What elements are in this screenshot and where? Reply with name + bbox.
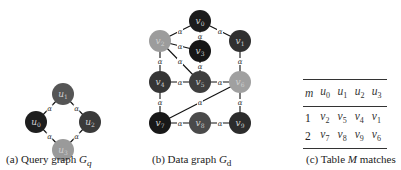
row-index: 2 — [303, 128, 318, 149]
edge-label: α — [158, 58, 163, 66]
node-v0: v0 — [189, 10, 211, 32]
header-m: m — [303, 80, 318, 107]
edge-label: α — [158, 99, 163, 107]
table-header-row: m u0 u1 u2 u3 — [303, 80, 387, 107]
edge-label: α — [178, 79, 183, 87]
edge-label: α — [47, 105, 52, 113]
match-cell: v5 — [336, 107, 353, 128]
edge-label: α — [74, 133, 79, 141]
node-v3: v3 — [189, 40, 211, 62]
caption-table: (c) Table M matches — [306, 153, 396, 165]
edge-label: α — [198, 63, 203, 71]
match-cell: v6 — [370, 128, 387, 149]
matches-table: m u0 u1 u2 u3 1v2v5v4v12v7v8v9v6 — [303, 79, 387, 149]
node-v6: v6 — [229, 71, 251, 93]
match-cell: v1 — [370, 107, 387, 128]
node-v2: v2 — [149, 30, 171, 52]
edge-label: α — [47, 133, 52, 141]
node-v1: v1 — [229, 30, 251, 52]
node-u1: u1 — [52, 83, 74, 105]
header-u0: u0 — [318, 80, 335, 107]
edge-label: α — [198, 33, 203, 41]
header-u3: u3 — [370, 80, 387, 107]
header-u1: u1 — [336, 80, 353, 107]
caption-query-graph: (a) Query graph Gq — [6, 153, 92, 168]
node-u0: u0 — [25, 111, 47, 133]
caption-data-graph: (b) Data graph Gd — [152, 153, 231, 168]
edge-label: α — [178, 58, 183, 66]
node-v4: v4 — [149, 71, 171, 93]
edge-label: α — [178, 43, 183, 51]
match-cell: v8 — [336, 128, 353, 149]
table-row: 2v7v8v9v6 — [303, 128, 387, 149]
node-u2: u2 — [79, 111, 101, 133]
match-cell: v4 — [353, 107, 370, 128]
data-graph: αααααααααααααααv0v2v3v1v4v5v6v7v8v9 — [149, 10, 251, 134]
edge-label: α — [218, 120, 223, 128]
edge-label: α — [178, 120, 183, 128]
edge-label: α — [218, 79, 223, 87]
edge-label: α — [74, 105, 79, 113]
node-v8: v8 — [189, 112, 211, 134]
row-index: 1 — [303, 107, 318, 128]
edge-label: α — [238, 99, 243, 107]
edge-label: α — [198, 99, 203, 107]
edge-label: α — [178, 28, 183, 36]
edge-label: α — [238, 58, 243, 66]
table-row: 1v2v5v4v1 — [303, 107, 387, 128]
node-v9: v9 — [229, 112, 251, 134]
query-graph: ααααu1u0u2u3 — [25, 83, 101, 161]
match-cell: v9 — [353, 128, 370, 149]
node-v5: v5 — [189, 71, 211, 93]
node-v7: v7 — [149, 112, 171, 134]
match-cell: v7 — [318, 128, 335, 149]
edge-label: α — [218, 28, 223, 36]
header-u2: u2 — [353, 80, 370, 107]
match-cell: v2 — [318, 107, 335, 128]
